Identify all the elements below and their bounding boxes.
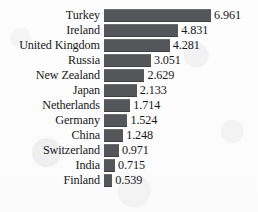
- category-label: India: [0, 158, 100, 173]
- bar-group: 1.714: [104, 98, 160, 113]
- bar-row: China1.248: [0, 128, 258, 143]
- bar: [104, 84, 137, 97]
- bar-group: 4.831: [104, 23, 208, 38]
- bar-group: 1.248: [104, 128, 153, 143]
- category-label: Russia: [0, 53, 100, 68]
- bar-group: 2.629: [104, 68, 174, 83]
- category-label: Germany: [0, 113, 100, 128]
- bar-value-label: 0.971: [122, 143, 149, 158]
- bar-group: 0.715: [104, 158, 145, 173]
- bar-row: Finland0.539: [0, 173, 258, 188]
- bar-row: Ireland4.831: [0, 23, 258, 38]
- bar-row: United Kingdom4.281: [0, 38, 258, 53]
- bar-value-label: 0.539: [115, 173, 142, 188]
- category-label: Turkey: [0, 8, 100, 23]
- bar-value-label: 6.961: [214, 8, 241, 23]
- bar: [104, 69, 144, 82]
- bar-value-label: 2.629: [147, 68, 174, 83]
- category-label: New Zealand: [0, 68, 100, 83]
- category-label: Finland: [0, 173, 100, 188]
- bar-value-label: 2.133: [140, 83, 167, 98]
- bar: [104, 24, 178, 37]
- category-label: China: [0, 128, 100, 143]
- bar: [104, 39, 170, 52]
- bar: [104, 114, 127, 127]
- bar-value-label: 1.714: [133, 98, 160, 113]
- bar-value-label: 4.281: [173, 38, 200, 53]
- bar-group: 6.961: [104, 8, 241, 23]
- bar-value-label: 1.248: [126, 128, 153, 143]
- bar: [104, 159, 115, 172]
- bar-value-label: 4.831: [181, 23, 208, 38]
- bar: [104, 129, 123, 142]
- bar: [104, 174, 112, 187]
- bar-row: Netherlands1.714: [0, 98, 258, 113]
- bar-value-label: 3.051: [154, 53, 181, 68]
- bar-group: 4.281: [104, 38, 200, 53]
- category-label: Switzerland: [0, 143, 100, 158]
- horizontal-bar-chart: Turkey6.961Ireland4.831United Kingdom4.2…: [0, 0, 258, 212]
- bar-row: Switzerland0.971: [0, 143, 258, 158]
- bar-row: New Zealand2.629: [0, 68, 258, 83]
- bar-row: India0.715: [0, 158, 258, 173]
- bar-row: Russia3.051: [0, 53, 258, 68]
- bar: [104, 54, 151, 67]
- bar-group: 3.051: [104, 53, 181, 68]
- category-label: Ireland: [0, 23, 100, 38]
- bar-row: Japan2.133: [0, 83, 258, 98]
- bar-value-label: 1.524: [130, 113, 157, 128]
- bar: [104, 99, 130, 112]
- bar-row: Turkey6.961: [0, 8, 258, 23]
- category-label: United Kingdom: [0, 38, 100, 53]
- bar-group: 1.524: [104, 113, 157, 128]
- bar-group: 2.133: [104, 83, 167, 98]
- bar-row: Germany1.524: [0, 113, 258, 128]
- category-label: Netherlands: [0, 98, 100, 113]
- category-label: Japan: [0, 83, 100, 98]
- bar: [104, 9, 211, 22]
- bar: [104, 144, 119, 157]
- bar-group: 0.971: [104, 143, 149, 158]
- bar-value-label: 0.715: [118, 158, 145, 173]
- bar-group: 0.539: [104, 173, 142, 188]
